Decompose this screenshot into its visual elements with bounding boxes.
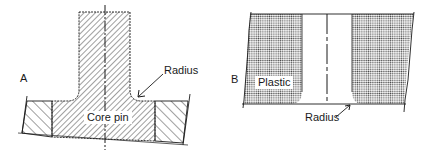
figure-a-radius-label: Radius	[164, 65, 198, 76]
figure-b-radius-label: Radius	[305, 112, 339, 123]
figure-b	[242, 12, 414, 117]
right-plastic-region	[352, 14, 413, 104]
radius-leader-a	[138, 74, 163, 97]
left-mold-block	[22, 101, 52, 137]
right-mold-block	[155, 101, 188, 143]
diagram-canvas	[0, 0, 426, 156]
figure-a	[18, 5, 190, 150]
figure-a-letter: A	[20, 73, 27, 84]
plastic-label: Plastic	[255, 76, 293, 89]
figure-b-letter: B	[231, 74, 238, 85]
core-pin-label: Core pin	[84, 111, 132, 124]
left-plastic-region	[244, 14, 302, 104]
